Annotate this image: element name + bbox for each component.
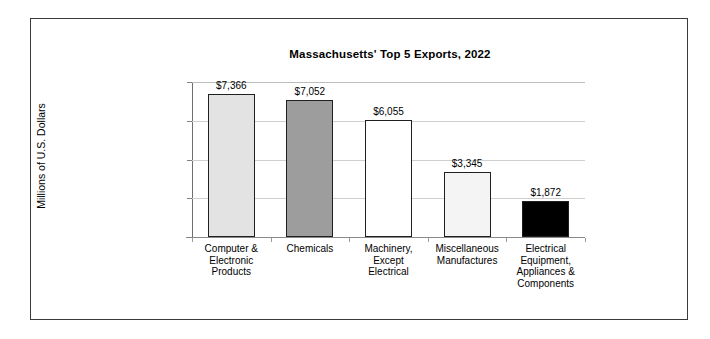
gridline <box>192 237 585 238</box>
bar-value-label: $7,052 <box>271 87 350 97</box>
x-axis-category-label: MiscellaneousManufactures <box>422 243 513 266</box>
bar-value-label: $1,872 <box>506 188 585 198</box>
x-axis-category-line: Products <box>186 266 277 278</box>
x-axis-tick-mark <box>506 238 507 242</box>
x-axis-tick-mark <box>271 238 272 242</box>
bar[interactable] <box>286 100 333 237</box>
y-axis-tick-mark <box>187 198 192 199</box>
y-axis-title: Millions of U.S. Dollars <box>35 71 47 241</box>
x-axis-tick-mark <box>192 238 193 242</box>
chart-title: Massachusetts' Top 5 Exports, 2022 <box>150 48 630 60</box>
y-axis-tick-mark <box>187 160 192 161</box>
x-axis-category-line: Miscellaneous <box>422 243 513 255</box>
x-axis-category-line: Electrical <box>343 266 434 278</box>
y-axis-tick-mark <box>187 121 192 122</box>
x-axis-category-line: Components <box>500 278 591 290</box>
bar[interactable] <box>444 172 491 237</box>
x-axis-category-line: Machinery, <box>343 243 434 255</box>
x-axis-category-label: Computer &ElectronicProducts <box>186 243 277 278</box>
x-axis-category-line: Appliances & <box>500 266 591 278</box>
bar-value-label: $7,366 <box>192 81 271 91</box>
x-axis-category-line: Electrical <box>500 243 591 255</box>
x-axis-category-line: Electronic <box>186 255 277 267</box>
x-axis-tick-mark <box>585 238 586 242</box>
x-axis-category-line: Equipment, <box>500 255 591 267</box>
x-axis-category-line: Computer & <box>186 243 277 255</box>
bar[interactable] <box>208 94 255 237</box>
x-axis-tick-mark <box>428 238 429 242</box>
x-axis-category-line: Except <box>343 255 434 267</box>
x-axis-category-line: Manufactures <box>422 255 513 267</box>
bar-value-label: $3,345 <box>428 159 507 169</box>
x-axis-category-line: Chemicals <box>265 243 356 255</box>
bar[interactable] <box>522 201 569 237</box>
chart-page: Massachusetts' Top 5 Exports, 2022 Milli… <box>0 0 710 339</box>
x-axis-category-label: Chemicals <box>265 243 356 255</box>
x-axis-tick-mark <box>349 238 350 242</box>
x-axis-category-label: ElectricalEquipment,Appliances &Componen… <box>500 243 591 289</box>
x-axis-category-label: Machinery,ExceptElectrical <box>343 243 434 278</box>
bar-value-label: $6,055 <box>349 107 428 117</box>
bar[interactable] <box>365 120 412 237</box>
